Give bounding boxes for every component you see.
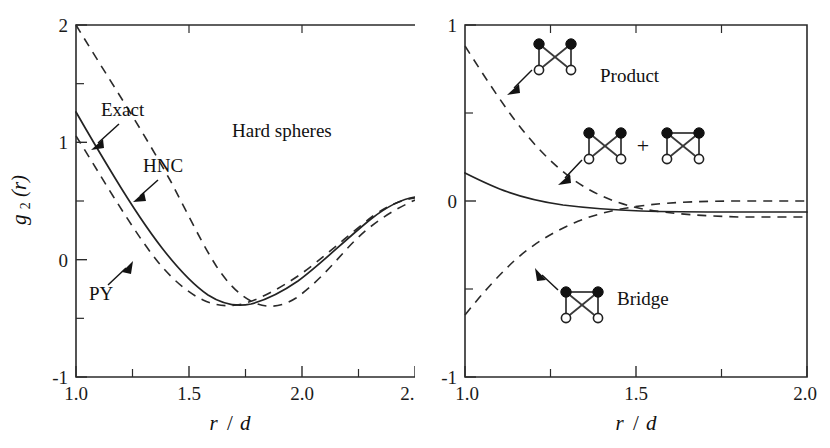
right-plot-svg: 1 0 -1 1.0 1.5 2.0 r / d	[415, 0, 830, 448]
filled-node	[584, 128, 594, 138]
left-ylabel-sub: 2	[18, 202, 33, 209]
left-ylabel-arg: (r)	[7, 175, 31, 197]
left-hnc-leader-arrow	[133, 180, 158, 202]
right-bridge-label: Bridge	[617, 288, 669, 309]
left-ytick-1: 1	[59, 132, 69, 153]
right-xtick-2p0: 2.0	[793, 383, 817, 404]
left-xtick-2p0: 2.0	[290, 383, 314, 404]
right-plus-sign: +	[637, 133, 649, 158]
filled-node	[534, 39, 544, 49]
left-xtick-1p5: 1.5	[177, 383, 201, 404]
open-node	[534, 65, 543, 74]
right-ytick-1: 1	[448, 15, 458, 36]
left-hnc-label: HNC	[143, 155, 183, 176]
right-y-ticks	[465, 25, 476, 377]
sum-leader-arrow	[558, 160, 582, 185]
svg-text:r / d: r / d	[209, 411, 251, 435]
left-xtick-2p5: 2.5	[400, 383, 415, 404]
filled-node	[662, 128, 672, 138]
left-exact-label: Exact	[101, 99, 145, 120]
left-py-label: PY	[89, 283, 114, 304]
right-product-label: Product	[600, 65, 660, 86]
filled-node	[593, 287, 603, 297]
left-y-ticks	[76, 25, 87, 377]
right-plot-panel: 1 0 -1 1.0 1.5 2.0 r / d	[415, 0, 830, 448]
left-xlabel-num: r	[209, 411, 218, 435]
curve-py	[76, 136, 415, 306]
open-node	[662, 154, 671, 163]
left-xlabel-slash: /	[227, 411, 233, 435]
left-ytick-2: 2	[59, 15, 69, 36]
left-xlabel-den: d	[240, 411, 251, 435]
right-xtick-1p0: 1.0	[455, 383, 479, 404]
open-node	[616, 154, 625, 163]
left-xtick-1p0: 1.0	[64, 383, 88, 404]
figure-container: 2 1 0 -1 1.0 1.5 2.0 2.5 r / d g 2	[0, 0, 830, 448]
left-py-leader-arrow	[108, 261, 133, 285]
product-cluster-diagram	[534, 39, 576, 75]
open-node	[593, 313, 602, 322]
open-node	[566, 65, 575, 74]
left-plot-svg: 2 1 0 -1 1.0 1.5 2.0 2.5 r / d g 2	[0, 0, 415, 448]
open-node	[584, 154, 593, 163]
right-x-axis-label: r / d	[615, 411, 657, 435]
left-axes-frame	[76, 25, 415, 377]
left-x-ticks	[76, 25, 415, 377]
right-xlabel-den: d	[646, 411, 657, 435]
right-xlabel-num: r	[615, 411, 624, 435]
svg-text:g 2 (r): g 2 (r)	[7, 175, 33, 225]
sum-cluster-diagram-b	[662, 128, 704, 164]
left-plot-panel: 2 1 0 -1 1.0 1.5 2.0 2.5 r / d g 2	[0, 0, 415, 448]
left-hard-spheres-label: Hard spheres	[232, 120, 332, 141]
right-xlabel-slash: /	[633, 411, 639, 435]
sum-cluster-diagram-a	[584, 128, 626, 164]
open-node	[561, 313, 570, 322]
filled-node	[616, 128, 626, 138]
left-y-axis-label: g 2 (r)	[7, 175, 33, 225]
open-node	[694, 154, 703, 163]
curve-hnc	[76, 25, 415, 306]
bridge-leader-arrow	[535, 268, 558, 290]
filled-node	[694, 128, 704, 138]
left-ylabel-base: g	[7, 215, 31, 226]
bridge-cluster-diagram	[561, 287, 603, 323]
right-ytick-0: 0	[448, 191, 458, 212]
svg-text:r / d: r / d	[615, 411, 657, 435]
left-ytick-0: 0	[59, 250, 69, 271]
left-x-axis-label: r / d	[209, 411, 251, 435]
filled-node	[566, 39, 576, 49]
product-leader-arrow	[507, 70, 532, 95]
right-xtick-1p5: 1.5	[624, 383, 648, 404]
filled-node	[561, 287, 571, 297]
